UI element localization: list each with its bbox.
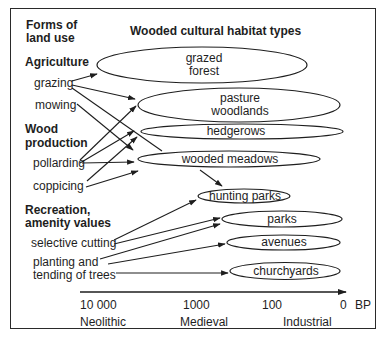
timeline-period-medieval: Medieval	[180, 316, 228, 329]
timeline-tick-100: 100	[262, 299, 282, 312]
group-title-recreation-line2: amenity values	[25, 217, 111, 230]
habitat-types-heading: Wooded cultural habitat types	[130, 25, 301, 38]
group-title-wood-line2: production	[25, 136, 88, 150]
land-use-heading-line2: land use	[26, 32, 77, 45]
habitat-label-churchyards: churchyards	[248, 265, 324, 278]
land-use-heading: Forms of land use	[26, 19, 77, 45]
timeline-period-neolithic: Neolithic	[80, 316, 126, 329]
habitat-label-parks: parks	[252, 213, 312, 226]
arrow-grazing-pasture-woodlands	[72, 85, 135, 99]
habitat-label-pasture-woodlands: pasture woodlands	[200, 92, 280, 118]
item-planting-tending: planting and tending of trees	[33, 256, 116, 282]
group-title-agriculture: Agriculture	[25, 56, 89, 69]
habitat-grazed-line2: forest	[172, 65, 236, 78]
group-title-wood-line1: Wood	[25, 122, 88, 136]
item-planting-line2: tending of trees	[33, 269, 116, 282]
habitat-label-avenues: avenues	[252, 236, 316, 249]
group-title-wood-production: Wood production	[25, 122, 88, 150]
arrow-planting-avenues	[108, 244, 225, 264]
arrow-coppicing-wooded-meadows	[86, 171, 138, 187]
arrow-grazing-grazed-forest	[72, 74, 97, 81]
item-pollarding: pollarding	[33, 157, 85, 170]
item-coppicing: coppicing	[33, 180, 84, 193]
habitat-pasture-line2: woodlands	[200, 105, 280, 118]
timeline-tick-1000: 1000	[183, 299, 210, 312]
habitat-label-hedgerows: hedgerows	[196, 125, 276, 138]
timeline-unit: BP	[355, 299, 371, 312]
group-title-recreation: Recreation, amenity values	[25, 204, 111, 230]
habitat-label-wooded-meadows: wooded meadows	[180, 153, 280, 166]
item-mowing: mowing	[35, 99, 76, 112]
timeline-tick-0: 0	[340, 299, 347, 312]
arrow-wooded-meadows-hunting-parks	[200, 170, 222, 186]
item-grazing: grazing	[34, 77, 73, 90]
habitat-label-grazed-forest: grazed forest	[172, 52, 236, 78]
item-selective-cutting: selective cutting	[31, 237, 116, 250]
timeline-tick-10000: 10 000	[80, 299, 117, 312]
habitat-label-hunting-parks: hunting parks	[202, 190, 288, 203]
arrow-pollarding-pasture-woodlands	[80, 106, 136, 160]
timeline-period-industrial: Industrial	[283, 316, 332, 329]
arrow-selective-cutting-parks	[114, 218, 220, 244]
arrow-planting-parks	[100, 224, 220, 259]
